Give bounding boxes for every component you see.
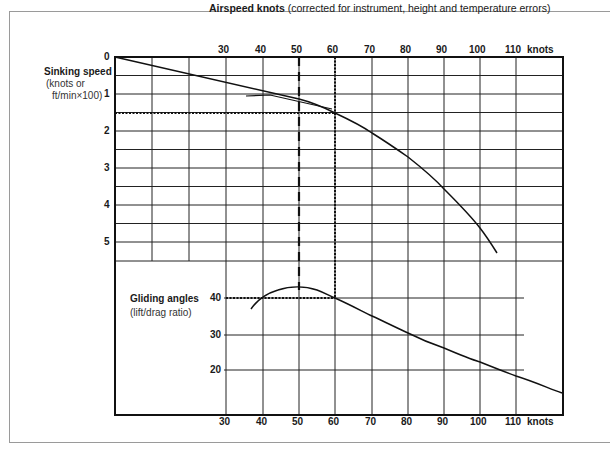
sinking-speed-unit-2: ft/min×100) — [52, 90, 102, 102]
top-x-tick-80: 80 — [400, 44, 411, 55]
y-tick-3: 3 — [104, 162, 110, 173]
top-x-tick-30: 30 — [218, 44, 229, 55]
bottom-x-tick-60: 60 — [328, 416, 339, 427]
title-note: (corrected for instrument, height and te… — [288, 2, 551, 14]
y-tick-0: 0 — [104, 51, 110, 62]
bottom-x-tick-50: 50 — [292, 416, 303, 427]
y-tick-1: 1 — [104, 88, 110, 99]
sinking-speed-unit-1: (knots or — [46, 78, 85, 90]
bottom-x-tick-30: 30 — [219, 416, 230, 427]
bottom-x-tick-80: 80 — [401, 416, 412, 427]
title-bold: Airspeed knots — [209, 2, 285, 14]
plot-frame — [115, 57, 563, 415]
chart-title: Airspeed knots (corrected for instrument… — [209, 2, 550, 14]
bottom-x-tick-110: 110 — [505, 416, 521, 427]
grid — [115, 57, 563, 415]
top-x-unit: knots — [527, 44, 554, 55]
y-tick-5: 5 — [104, 236, 110, 247]
gliding-angles-label: Gliding angles — [130, 293, 199, 305]
top-x-tick-70: 70 — [364, 44, 375, 55]
bottom-x-tick-90: 90 — [437, 416, 448, 427]
top-x-tick-110: 110 — [505, 44, 521, 55]
bottom-x-tick-40: 40 — [256, 416, 267, 427]
gliding-angle-curve — [251, 287, 562, 393]
top-x-tick-40: 40 — [255, 44, 266, 55]
sinking-speed-label: Sinking speed — [44, 66, 112, 78]
bottom-x-unit: knots — [527, 416, 554, 427]
glide-tick-40: 40 — [210, 292, 221, 303]
top-x-tick-60: 60 — [327, 44, 338, 55]
bottom-x-tick-70: 70 — [365, 416, 376, 427]
y-tick-4: 4 — [104, 199, 110, 210]
top-x-tick-100: 100 — [469, 44, 486, 55]
glide-tick-20: 20 — [210, 364, 221, 375]
bottom-x-tick-100: 100 — [470, 416, 487, 427]
gliding-angles-unit: (lift/drag ratio) — [130, 307, 192, 319]
top-x-tick-50: 50 — [291, 44, 302, 55]
top-x-tick-90: 90 — [436, 44, 447, 55]
y-tick-2: 2 — [104, 125, 110, 136]
glide-tick-30: 30 — [210, 329, 221, 340]
